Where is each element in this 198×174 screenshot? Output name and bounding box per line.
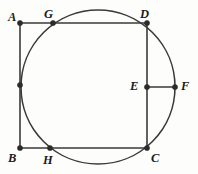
point-f-marker xyxy=(172,84,177,89)
geometry-figure: AGDEFBHC xyxy=(0,0,198,174)
point-label-f: F xyxy=(181,80,189,93)
point-label-e: E xyxy=(130,80,138,93)
point-label-d: D xyxy=(140,8,149,21)
point-label-a: A xyxy=(8,11,16,24)
point-label-h: H xyxy=(43,154,53,167)
point-label-g: G xyxy=(44,8,53,21)
point-layer xyxy=(17,20,177,150)
point-label-c: C xyxy=(151,152,159,165)
geometry-canvas xyxy=(0,0,198,174)
point-e-marker xyxy=(144,84,149,89)
point-a-marker xyxy=(17,20,22,25)
point-g-marker xyxy=(50,20,55,25)
point-b-marker xyxy=(17,145,22,150)
point-c-marker xyxy=(144,145,149,150)
point-d-marker xyxy=(144,20,149,25)
point-label-b: B xyxy=(8,152,16,165)
square-layer xyxy=(20,23,147,148)
point-p1-marker xyxy=(17,82,22,87)
point-h-marker xyxy=(47,145,52,150)
